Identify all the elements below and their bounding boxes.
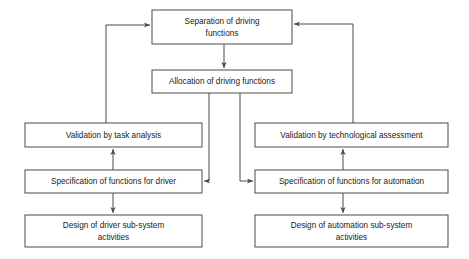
flowchart-diagram: Separation of driving functions Allocati… <box>0 0 469 259</box>
node-spec-driver[interactable]: Specification of functions for driver <box>25 170 202 193</box>
connector-allocation-to-spec-automation <box>240 93 253 181</box>
node-design-driver-label-line1: Design of driver sub-system <box>63 221 165 230</box>
node-separation-label-line2: functions <box>206 29 239 38</box>
node-design-automation-label-line2: activities <box>336 233 367 242</box>
node-separation[interactable]: Separation of driving functions <box>152 10 292 44</box>
node-allocation-label: Allocation of driving functions <box>169 77 275 86</box>
node-separation-label-line1: Separation of driving <box>184 17 260 26</box>
node-validation-task[interactable]: Validation by task analysis <box>25 123 202 147</box>
node-validation-task-label: Validation by task analysis <box>66 131 161 140</box>
node-spec-automation-label: Specification of functions for automatio… <box>279 177 425 186</box>
node-spec-automation[interactable]: Specification of functions for automatio… <box>255 170 448 193</box>
flowchart-canvas: Separation of driving functions Allocati… <box>0 0 469 259</box>
node-spec-driver-label: Specification of functions for driver <box>51 177 176 186</box>
node-design-driver[interactable]: Design of driver sub-system activities <box>25 215 202 247</box>
node-allocation[interactable]: Allocation of driving functions <box>152 70 292 93</box>
node-design-driver-label-line2: activities <box>98 233 129 242</box>
node-validation-tech[interactable]: Validation by technological assessment <box>255 123 448 147</box>
connector-validation-task-to-separation <box>106 25 150 123</box>
node-design-automation-label-line1: Design of automation sub-system <box>291 221 413 230</box>
node-validation-tech-label: Validation by technological assessment <box>280 131 423 140</box>
connector-validation-tech-to-separation <box>294 24 353 123</box>
connector-allocation-to-spec-driver <box>204 93 209 181</box>
node-design-automation[interactable]: Design of automation sub-system activiti… <box>255 215 448 247</box>
